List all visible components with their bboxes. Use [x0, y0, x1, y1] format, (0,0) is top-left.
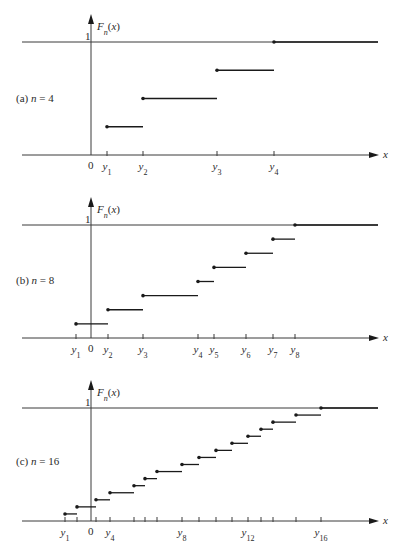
y-axis-label: Fn(x) [96, 386, 120, 403]
tick-label-y1: y1 [71, 343, 81, 360]
x-axis-label: x [382, 148, 388, 160]
ecdf-figure: xFn(x)10(a) n = 4y1y2y3y4xFn(x)10(b) n =… [0, 0, 405, 546]
one-label: 1 [85, 30, 91, 42]
tick-label-y4: y4 [193, 343, 203, 360]
step-point [141, 294, 145, 298]
tick-label-y3: y3 [138, 343, 148, 360]
step-point [197, 456, 201, 460]
step-point [293, 223, 297, 227]
one-label: 1 [85, 396, 91, 408]
y-axis-arrow-icon [88, 14, 94, 24]
zero-label: 0 [88, 342, 94, 354]
step-point [271, 420, 275, 424]
x-axis-label: x [382, 514, 388, 526]
step-point [294, 413, 298, 417]
tick-label-y8: y8 [177, 526, 187, 543]
step-point [75, 505, 79, 509]
step-point [132, 484, 136, 488]
step-point [215, 68, 219, 72]
y-axis-label: Fn(x) [96, 203, 120, 220]
step-point [244, 251, 248, 255]
step-point [271, 237, 275, 241]
tick-label-y2: y2 [138, 160, 148, 177]
step-point [141, 97, 145, 101]
step-point [94, 498, 98, 502]
y-axis-arrow-icon [88, 380, 94, 390]
panel-n-label: (a) n = 4 [16, 92, 54, 105]
tick-label-y3: y3 [212, 160, 222, 177]
zero-label: 0 [88, 525, 94, 537]
x-axis-arrow-icon [369, 335, 379, 341]
tick-label-y6: y6 [241, 343, 251, 360]
panel-b: xFn(x)10(b) n = 8y1y2y3y4y5y6y7y8 [16, 197, 388, 360]
tick-label-y1: y1 [60, 526, 70, 543]
step-point [74, 322, 78, 326]
step-point [108, 491, 112, 495]
step-point [319, 406, 323, 410]
step-point [230, 442, 234, 446]
y-axis-label: Fn(x) [96, 20, 120, 37]
tick-label-y8: y8 [290, 343, 300, 360]
step-point [214, 449, 218, 453]
zero-label: 0 [88, 159, 94, 171]
tick-label-y1: y1 [102, 160, 112, 177]
x-axis-label: x [382, 331, 388, 343]
panel-c: xFn(x)10(c) n = 16y1y4y8y12y16 [16, 380, 388, 543]
tick-label-y5: y5 [209, 343, 219, 360]
tick-label-y2: y2 [103, 343, 113, 360]
step-point [196, 280, 200, 284]
x-axis-arrow-icon [369, 152, 379, 158]
step-point [246, 434, 250, 438]
tick-label-y7: y7 [268, 343, 278, 360]
step-point [155, 470, 159, 474]
step-point [180, 463, 184, 467]
panel-a: xFn(x)10(a) n = 4y1y2y3y4 [16, 14, 388, 177]
step-point [143, 477, 147, 481]
step-point [105, 125, 109, 129]
x-axis-arrow-icon [369, 518, 379, 524]
panel-n-label: (c) n = 16 [16, 455, 60, 468]
panel-n-label: (b) n = 8 [16, 274, 55, 287]
step-point [259, 427, 263, 431]
tick-label-y4: y4 [105, 526, 115, 543]
step-point [212, 266, 216, 270]
step-point [106, 308, 110, 312]
step-point [272, 40, 276, 44]
y-axis-arrow-icon [88, 197, 94, 207]
one-label: 1 [85, 213, 91, 225]
tick-label-y4: y4 [269, 160, 279, 177]
tick-label-y12: y12 [241, 526, 255, 543]
step-point [63, 512, 67, 516]
tick-label-y16: y16 [314, 526, 328, 543]
